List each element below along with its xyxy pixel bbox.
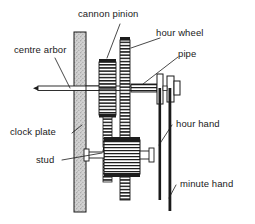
clock-motion-work-diagram xyxy=(0,0,255,224)
diagram-page: cannon pinion hour wheel pipe centre arb… xyxy=(0,0,255,224)
leader-centre-arbor xyxy=(55,58,70,88)
label-hour-hand: hour hand xyxy=(176,118,220,129)
minute-hand-part xyxy=(169,88,172,211)
leader-hour-wheel xyxy=(131,38,160,48)
label-centre-arbor: centre arbor xyxy=(14,44,66,55)
label-cannon-pinion: cannon pinion xyxy=(78,8,138,19)
stud-wheel-part xyxy=(84,137,154,177)
label-minute-hand: minute hand xyxy=(180,178,233,189)
label-clock-plate: clock plate xyxy=(10,126,56,137)
clock-plate-part xyxy=(74,32,86,212)
leader-cannon-pinion xyxy=(107,24,120,58)
label-hour-wheel: hour wheel xyxy=(156,27,203,38)
label-stud: stud xyxy=(36,154,54,165)
label-pipe: pipe xyxy=(178,48,196,59)
pipe-part xyxy=(131,74,180,104)
